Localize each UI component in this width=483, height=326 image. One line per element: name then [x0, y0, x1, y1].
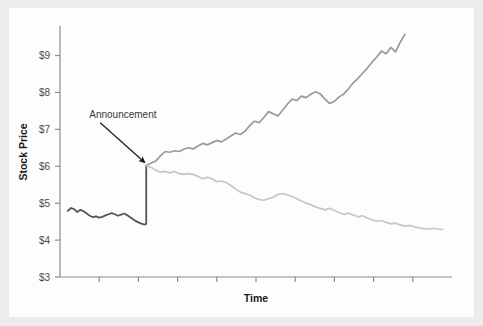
y-axis-title: Stock Price	[17, 123, 29, 180]
y-axis-tick-label: $9	[39, 50, 51, 61]
series-line-good-outcome	[146, 34, 405, 165]
x-axis-title: Time	[244, 292, 268, 304]
y-axis-tick-label: $5	[39, 198, 51, 209]
announcement-arrow-icon	[100, 123, 145, 163]
y-axis-tick-label: $7	[39, 124, 51, 135]
data-series-group	[68, 34, 443, 229]
series-line-pre-announcement	[68, 166, 146, 225]
chart-figure: $3$4$5$6$7$8$9 Announcement Stock Price …	[0, 0, 483, 326]
series-line-bad-outcome	[146, 166, 442, 230]
stock-price-line-chart: $3$4$5$6$7$8$9 Announcement Stock Price …	[0, 0, 483, 326]
y-axis-ticks: $3$4$5$6$7$8$9	[39, 50, 60, 282]
y-axis-tick-label: $8	[39, 87, 51, 98]
announcement-annotation: Announcement	[89, 109, 156, 163]
axes-group	[60, 26, 452, 277]
y-axis-tick-label: $3	[39, 272, 51, 283]
announcement-label: Announcement	[89, 109, 156, 120]
y-axis-tick-label: $4	[39, 235, 51, 246]
y-axis-tick-label: $6	[39, 161, 51, 172]
x-axis-ticks	[99, 277, 413, 282]
